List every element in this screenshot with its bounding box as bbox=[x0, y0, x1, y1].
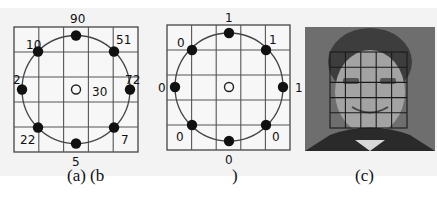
svg-text:0: 0 bbox=[225, 153, 233, 167]
caption-b-close: ) bbox=[232, 166, 238, 186]
svg-text:0: 0 bbox=[158, 81, 166, 95]
svg-text:0: 0 bbox=[272, 130, 280, 144]
svg-text:0: 0 bbox=[177, 36, 185, 50]
svg-text:1: 1 bbox=[295, 81, 303, 95]
svg-text:72: 72 bbox=[125, 73, 140, 87]
svg-text:7: 7 bbox=[121, 133, 129, 147]
svg-text:30: 30 bbox=[92, 85, 107, 99]
svg-text:51: 51 bbox=[116, 33, 131, 47]
svg-text:2: 2 bbox=[13, 73, 21, 87]
panel-c-face-image bbox=[305, 27, 435, 151]
svg-text:0: 0 bbox=[176, 130, 184, 144]
svg-text:1: 1 bbox=[269, 33, 277, 47]
svg-text:10: 10 bbox=[26, 38, 41, 52]
caption-c: (c) bbox=[355, 166, 374, 186]
svg-text:90: 90 bbox=[70, 12, 85, 26]
caption-a-b: (a) (b bbox=[67, 166, 104, 186]
svg-text:22: 22 bbox=[20, 133, 35, 147]
svg-text:1: 1 bbox=[225, 11, 233, 25]
